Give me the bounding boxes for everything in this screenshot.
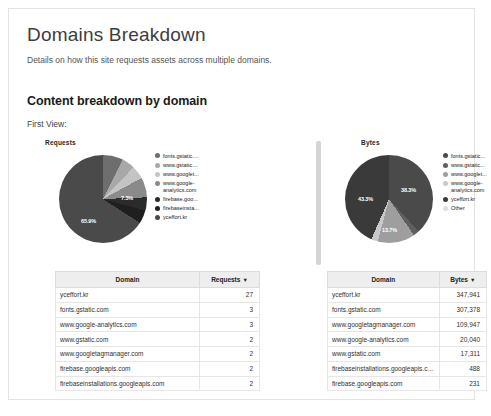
legend-item: firebase.goo... — [155, 196, 199, 203]
table-row: fonts.gstatic.com3 — [56, 302, 260, 317]
column-header-value[interactable]: Bytes▼ — [439, 271, 486, 287]
table-row: www.google-analytics.com20,040 — [328, 332, 487, 347]
panel-divider — [316, 141, 321, 265]
legend-swatch-icon — [443, 206, 448, 211]
bytes-pie-label-3: 13.7% — [382, 227, 397, 233]
cell-domain: firebaseinstallations.googleapis.com — [328, 361, 440, 376]
cell-domain: www.googletagmanager.com — [56, 347, 200, 362]
legend-item: www.googlet... — [443, 171, 487, 178]
legend-swatch-icon — [443, 153, 448, 158]
charts-region: Requests 65.9% 7.3% fonts.gstatic....www… — [27, 139, 456, 257]
cell-domain: www.gstatic.com — [328, 347, 440, 362]
legend-swatch-icon — [443, 181, 448, 186]
cell-value: 347,941 — [439, 287, 486, 302]
legend-item-label: fonts.gstatic... — [451, 153, 485, 160]
table-row: www.gstatic.com17,311 — [328, 347, 487, 362]
cell-domain: firebase.googleapis.com — [56, 361, 200, 376]
legend-item: fonts.gstatic.... — [155, 153, 199, 160]
cell-value: 20,040 — [439, 332, 486, 347]
table-row: yceffort.kr347,941 — [328, 287, 487, 302]
first-view-label: First View: — [27, 119, 456, 129]
legend-swatch-icon — [155, 206, 160, 211]
table-row: www.googletagmanager.com109,947 — [328, 317, 487, 332]
cell-domain: firebaseinstallations.googleapis.com — [56, 376, 200, 391]
table-row: firebase.googleapis.com231 — [328, 376, 487, 391]
requests-chart-panel: Requests 65.9% 7.3% fonts.gstatic....www… — [45, 139, 257, 257]
legend-swatch-icon — [155, 172, 160, 177]
cell-value: 2 — [200, 332, 260, 347]
bytes-chart-title: Bytes — [361, 139, 491, 146]
legend-item: yceffort.kr — [443, 196, 487, 203]
table-row: fonts.gstatic.com307,378 — [328, 302, 487, 317]
legend-swatch-icon — [155, 153, 160, 158]
cell-value: 17,311 — [439, 347, 486, 362]
legend-item-label: fonts.gstatic.... — [163, 153, 198, 160]
bytes-chart-panel: Bytes 38.3% 43.3% 13.7% fonts.gstatic...… — [327, 139, 491, 257]
table-row: yceffort.kr27 — [56, 287, 260, 302]
requests-chart-title: Requests — [45, 139, 257, 146]
legend-item-label: www.google- analytics.com — [163, 180, 196, 194]
sort-desc-icon: ▼ — [470, 277, 475, 283]
sort-desc-icon: ▼ — [242, 277, 247, 283]
cell-value: 231 — [439, 376, 486, 391]
table-row: www.google-analytics.com3 — [56, 317, 260, 332]
cell-value: 307,378 — [439, 302, 486, 317]
bytes-table: DomainBytes▼yceffort.kr347,941fonts.gsta… — [327, 271, 487, 391]
cell-value: 2 — [200, 361, 260, 376]
legend-item: www.gstatic.... — [155, 162, 199, 169]
cell-domain: fonts.gstatic.com — [328, 302, 440, 317]
legend-item: www.gstatic... — [443, 162, 487, 169]
legend-item: fonts.gstatic... — [443, 153, 487, 160]
cell-domain: www.gstatic.com — [56, 332, 200, 347]
requests-table-wrap: DomainRequests▼yceffort.kr27fonts.gstati… — [55, 271, 260, 391]
legend-item-label: www.google- analytics.com — [451, 180, 484, 194]
legend-item: firebaseinsta... — [155, 205, 199, 212]
requests-pie-label-2: 7.3% — [121, 195, 133, 201]
requests-legend: fonts.gstatic....www.gstatic....www.goog… — [155, 153, 199, 223]
requests-pie — [59, 155, 147, 243]
legend-item: www.googlet... — [155, 171, 199, 178]
bytes-table-wrap: DomainBytes▼yceffort.kr347,941fonts.gsta… — [327, 271, 487, 391]
table-row: www.googletagmanager.com2 — [56, 347, 260, 362]
section-title: Content breakdown by domain — [27, 94, 456, 108]
page-title: Domains Breakdown — [27, 25, 456, 46]
cell-domain: www.googletagmanager.com — [328, 317, 440, 332]
legend-item: www.google- analytics.com — [443, 180, 487, 194]
cell-domain: yceffort.kr — [328, 287, 440, 302]
legend-item: yceffort.kr — [155, 214, 199, 221]
legend-item: Other — [443, 205, 487, 212]
cell-value: 109,947 — [439, 317, 486, 332]
cell-domain: firebase.googleapis.com — [328, 376, 440, 391]
legend-item-label: Other — [451, 205, 465, 212]
bytes-legend: fonts.gstatic...www.gstatic...www.google… — [443, 153, 487, 214]
bytes-pie-label-1: 38.3% — [401, 187, 416, 193]
tables-region: DomainRequests▼yceffort.kr27fonts.gstati… — [27, 271, 456, 383]
bytes-pie-label-2: 43.3% — [358, 196, 373, 202]
legend-swatch-icon — [155, 163, 160, 168]
legend-item-label: firebaseinsta... — [163, 205, 199, 212]
legend-item-label: yceffort.kr — [451, 196, 475, 203]
cell-domain: yceffort.kr — [56, 287, 200, 302]
legend-swatch-icon — [443, 172, 448, 177]
legend-swatch-icon — [155, 181, 160, 186]
legend-swatch-icon — [443, 163, 448, 168]
legend-item-label: www.gstatic.... — [163, 162, 198, 169]
column-header-value[interactable]: Requests▼ — [200, 271, 260, 287]
requests-pie-label-1: 65.9% — [81, 218, 96, 224]
column-header-domain[interactable]: Domain — [56, 271, 200, 287]
column-header-domain[interactable]: Domain — [328, 271, 440, 287]
legend-swatch-icon — [155, 215, 160, 220]
cell-value: 2 — [200, 347, 260, 362]
cell-domain: www.google-analytics.com — [328, 332, 440, 347]
table-row: firebase.googleapis.com2 — [56, 361, 260, 376]
legend-item-label: www.googlet... — [163, 171, 199, 178]
legend-item: www.google- analytics.com — [155, 180, 199, 194]
legend-item-label: firebase.goo... — [163, 196, 198, 203]
legend-swatch-icon — [155, 197, 160, 202]
table-row: firebaseinstallations.googleapis.com2 — [56, 376, 260, 391]
cell-value: 2 — [200, 376, 260, 391]
cell-value: 3 — [200, 317, 260, 332]
table-row: www.gstatic.com2 — [56, 332, 260, 347]
legend-item-label: www.gstatic... — [451, 162, 485, 169]
table-row: firebaseinstallations.googleapis.com488 — [328, 361, 487, 376]
